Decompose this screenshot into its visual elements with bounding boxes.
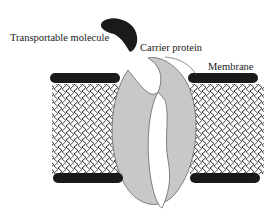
protein-label: Carrier protein — [140, 42, 202, 53]
diagram-canvas: Transportable molecule Carrier protein M… — [0, 0, 275, 218]
molecule-label: Transportable molecule — [10, 32, 109, 43]
right-lipid-tails — [190, 84, 264, 174]
membrane-label: Membrane — [208, 61, 253, 72]
carrier-protein — [112, 57, 196, 208]
